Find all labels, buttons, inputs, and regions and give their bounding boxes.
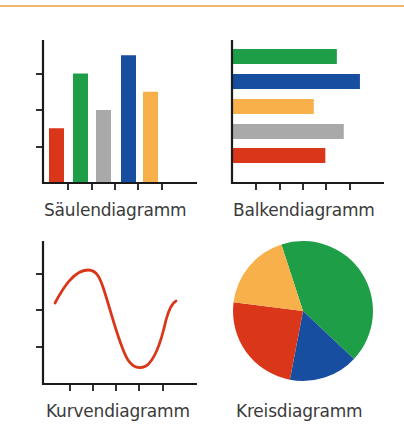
horizontal-bar — [233, 148, 325, 163]
line-chart-caption: Kurvendiagramm — [46, 401, 190, 421]
column-bar — [49, 128, 64, 183]
line-chart — [36, 241, 197, 391]
pie-chart-caption: Kreisdiagramm — [236, 401, 362, 421]
bar-chart-caption: Balkendiagramm — [233, 200, 375, 220]
pie-chart — [233, 241, 373, 381]
horizontal-bar — [233, 49, 337, 64]
column-bar — [96, 110, 111, 183]
horizontal-bar — [233, 124, 344, 139]
line-chart-curve — [55, 270, 176, 368]
column-bar — [143, 92, 158, 183]
horizontal-bar — [233, 74, 360, 89]
bar-chart — [231, 40, 384, 190]
column-chart-caption: Säulendiagramm — [44, 200, 186, 220]
column-bar — [73, 74, 88, 184]
column-chart — [36, 40, 197, 190]
horizontal-bar — [233, 99, 314, 114]
column-bar — [121, 55, 136, 183]
